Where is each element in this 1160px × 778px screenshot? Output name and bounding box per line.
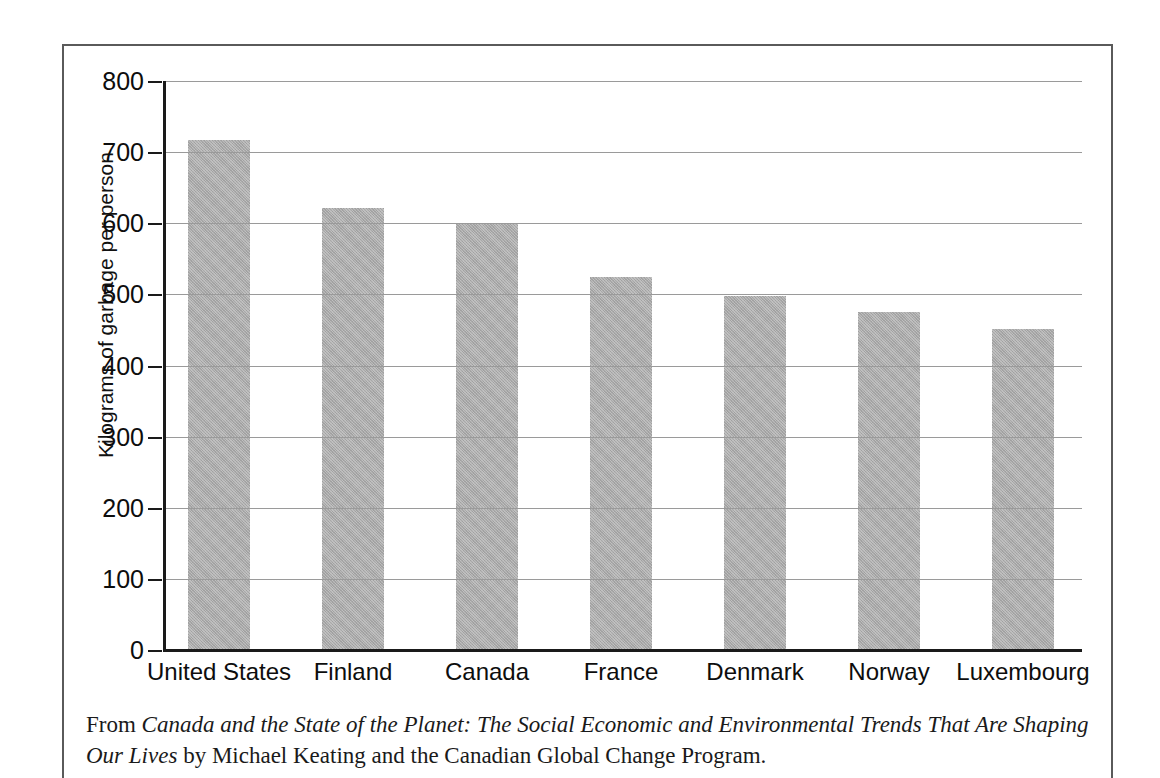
y-tick-label: 100 — [102, 564, 144, 593]
bar-luxembourg — [992, 329, 1054, 650]
tick-mark — [148, 437, 162, 439]
gridline — [164, 508, 1082, 509]
figure-caption: From Canada and the State of the Planet:… — [86, 709, 1096, 771]
gridline — [164, 437, 1082, 438]
gridline — [164, 579, 1082, 580]
x-axis-label-denmark: Denmark — [706, 658, 803, 686]
tick-mark — [148, 579, 162, 581]
bar-finland — [322, 208, 384, 650]
x-axis-label-finland: Finland — [314, 658, 393, 686]
tick-mark — [148, 366, 162, 368]
x-axis-label-united-states: United States — [147, 658, 291, 686]
bar-france — [590, 277, 652, 650]
bar-norway — [858, 312, 920, 650]
x-axis-label-france: France — [584, 658, 659, 686]
tick-mark — [148, 294, 162, 296]
y-tick-label: 0 — [130, 636, 144, 665]
gridline — [164, 366, 1082, 367]
tick-mark — [148, 81, 162, 83]
y-tick-label: 400 — [102, 351, 144, 380]
tick-mark — [148, 223, 162, 225]
y-tick-label: 500 — [102, 280, 144, 309]
bar-denmark — [724, 296, 786, 650]
x-axis-labels: United StatesFinlandCanadaFranceDenmarkN… — [164, 658, 1082, 698]
y-tick-label: 600 — [102, 209, 144, 238]
caption-lead: From — [86, 712, 142, 737]
y-axis-spine — [163, 81, 166, 652]
x-axis-baseline — [164, 649, 1082, 652]
tick-mark — [148, 152, 162, 154]
gridline — [164, 223, 1082, 224]
gridline — [164, 81, 1082, 82]
plot-area: 8007006005004003002001000 — [164, 81, 1082, 650]
x-axis-label-norway: Norway — [848, 658, 929, 686]
y-tick-label: 200 — [102, 493, 144, 522]
x-axis-label-canada: Canada — [445, 658, 529, 686]
y-tick-label: 800 — [102, 67, 144, 96]
bar-united-states — [188, 140, 250, 650]
y-tick-label: 300 — [102, 422, 144, 451]
x-axis-label-luxembourg: Luxembourg — [956, 658, 1089, 686]
gridline — [164, 294, 1082, 295]
y-tick-label: 700 — [102, 138, 144, 167]
bar-chart: Kilograms of garbage per person 80070060… — [64, 46, 1115, 696]
caption-trail: by Michael Keating and the Canadian Glob… — [177, 743, 766, 768]
gridline — [164, 152, 1082, 153]
tick-mark — [148, 508, 162, 510]
tick-mark — [148, 650, 162, 652]
figure-frame: Kilograms of garbage per person 80070060… — [62, 44, 1113, 778]
